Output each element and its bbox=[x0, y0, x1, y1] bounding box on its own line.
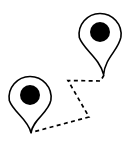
map-pin-dot-icon bbox=[90, 22, 110, 42]
map-canvas bbox=[0, 0, 127, 143]
map-pin-dot-icon bbox=[20, 85, 40, 105]
map-illustration bbox=[0, 0, 127, 143]
